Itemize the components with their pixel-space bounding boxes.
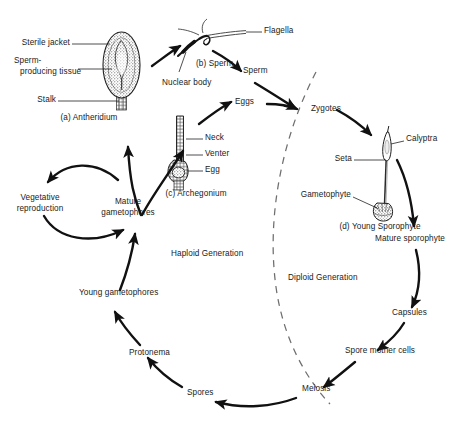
young-sporophyte-illustration (353, 126, 404, 221)
node-capsules: Capsules (392, 308, 427, 318)
label-sperm-producing-tissue-line2: producing tissue (20, 67, 81, 77)
archegonium-illustration (168, 116, 203, 190)
node-sperm: Sperm (243, 66, 268, 76)
label-stalk: Stalk (37, 95, 56, 105)
node-protonema: Protonema (129, 348, 170, 358)
caption-sperm: (b) Sperm (196, 59, 233, 69)
caption-archegonium: (c) Archegonium (165, 189, 226, 199)
node-spores: Spores (187, 388, 214, 398)
label-gametophyte: Gametophyte (301, 190, 351, 200)
label-venter: Venter (205, 149, 229, 159)
generation-divider (273, 72, 330, 404)
node-vegetative-reproduction-line2: reproduction (17, 204, 64, 214)
label-neck: Neck (205, 133, 224, 143)
node-vegetative-reproduction-line1: Vegetative (20, 193, 59, 203)
label-flagella: Flagella (264, 26, 293, 36)
node-zygotes: Zygotes (311, 104, 341, 114)
label-sterile-jacket: Sterile jacket (22, 38, 70, 48)
node-meiosis: Meiosis (302, 384, 330, 394)
caption-young-sporophyte: (d) Young Sporophyte (339, 222, 420, 232)
caption-antheridium: (a) Antheridium (60, 113, 117, 123)
label-sperm-producing-tissue-line1: Sperm- (14, 56, 41, 66)
node-spore-mother-cells: Spore mother cells (345, 346, 415, 356)
node-young-gametophores: Young gametophores (79, 288, 158, 298)
label-calyptra: Calyptra (406, 134, 437, 144)
label-nuclear-body: Nuclear body (162, 78, 211, 88)
node-eggs: Eggs (235, 97, 254, 107)
label-haploid-generation: Haploid Generation (171, 249, 243, 259)
moss-life-cycle-diagram: Sterile jacket Sperm- producing tissue S… (0, 0, 466, 431)
label-egg: Egg (205, 165, 220, 175)
node-mature-gametophores-line1: Mature (115, 197, 141, 207)
node-mature-sporophyte: Mature sporophyte (375, 234, 445, 244)
label-diploid-generation: Diploid Generation (288, 273, 358, 283)
node-mature-gametophores-line2: gametophores (101, 208, 155, 218)
label-seta: Seta (335, 154, 352, 164)
